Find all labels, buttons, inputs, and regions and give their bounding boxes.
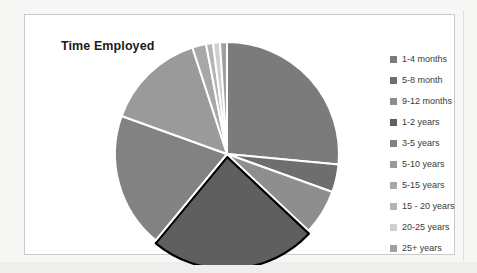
legend-item-label: 3-5 years — [402, 139, 440, 148]
scanned-page: Time Employed 1-4 months5-8 month9-12 mo… — [0, 0, 477, 273]
legend-swatch-icon — [390, 77, 397, 84]
legend-swatch-icon — [390, 140, 397, 147]
legend-swatch-icon — [390, 161, 397, 168]
legend-item[interactable]: 25+ years — [390, 238, 477, 259]
legend-swatch-icon — [390, 182, 397, 189]
legend-item[interactable]: 5-10 years — [390, 154, 477, 175]
legend-item-label: 9-12 months — [402, 97, 452, 106]
chart-legend: 1-4 months5-8 month9-12 months1-2 years3… — [390, 49, 477, 259]
legend-item-label: 1-4 months — [402, 55, 447, 64]
legend-item-label: 5-10 years — [402, 160, 445, 169]
legend-item[interactable]: 1-2 years — [390, 112, 477, 133]
legend-swatch-icon — [390, 245, 397, 252]
legend-item-label: 25+ years — [402, 244, 442, 253]
legend-item[interactable]: 1-4 months — [390, 49, 477, 70]
pie-slice[interactable] — [227, 42, 339, 165]
legend-swatch-icon — [390, 56, 397, 63]
legend-item[interactable]: 20-25 years — [390, 217, 477, 238]
legend-item[interactable]: 5-8 month — [390, 70, 477, 91]
legend-swatch-icon — [390, 119, 397, 126]
legend-item[interactable]: 3-5 years — [390, 133, 477, 154]
pie-chart — [85, 37, 375, 265]
legend-item[interactable]: 15 - 20 years — [390, 196, 477, 217]
legend-swatch-icon — [390, 98, 397, 105]
pie-chart-svg — [85, 37, 375, 265]
legend-item-label: 20-25 years — [402, 223, 450, 232]
pie-slice-group — [115, 42, 339, 265]
legend-item-label: 5-8 month — [402, 76, 443, 85]
legend-swatch-icon — [390, 203, 397, 210]
legend-item-label: 1-2 years — [402, 118, 440, 127]
legend-item[interactable]: 9-12 months — [390, 91, 477, 112]
chart-frame: Time Employed 1-4 months5-8 month9-12 mo… — [24, 14, 455, 255]
legend-item-label: 5-15 years — [402, 181, 445, 190]
legend-item[interactable]: 5-15 years — [390, 175, 477, 196]
legend-swatch-icon — [390, 224, 397, 231]
legend-item-label: 15 - 20 years — [402, 202, 455, 211]
